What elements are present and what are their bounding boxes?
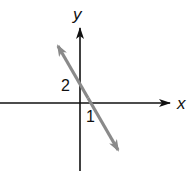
y-intercept-label: 2 [61,77,70,94]
x-axis-label: x [176,94,186,113]
x-intercept-label: 1 [86,108,95,125]
y-axis-label: y [72,5,83,24]
coordinate-graph: y x 2 1 [0,0,191,171]
